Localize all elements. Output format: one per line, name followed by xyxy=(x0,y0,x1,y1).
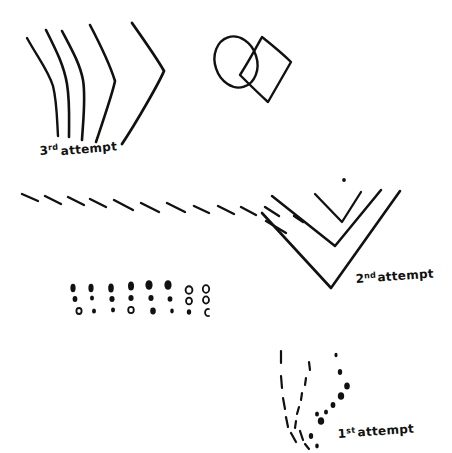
dashed-vee-segment xyxy=(305,378,306,385)
dashed-vee-segment xyxy=(305,444,309,449)
dash-segment xyxy=(265,207,279,216)
dashed-vee-segment xyxy=(309,362,310,370)
dot-mark xyxy=(92,308,96,313)
dashed-vee-dot xyxy=(315,444,319,449)
dashed-vee-dot xyxy=(324,409,328,414)
label-first-ordinal: st xyxy=(346,426,356,436)
dashed-vee-dot xyxy=(344,382,350,389)
vee-medium xyxy=(272,190,381,246)
dash-segment xyxy=(68,197,84,205)
loop-and-quadrilateral xyxy=(208,31,291,102)
quadrilateral-shape xyxy=(240,37,291,102)
label-third-attempt: 3rdattempt xyxy=(39,137,118,160)
dash-segment xyxy=(218,206,234,214)
dot-mark xyxy=(186,298,192,305)
dash-segment xyxy=(194,206,209,213)
dashed-vee-segment xyxy=(283,398,285,409)
dash-segment xyxy=(114,200,133,210)
dot-mark xyxy=(148,295,153,301)
dot-mark xyxy=(111,308,115,313)
dot-mark xyxy=(73,296,78,302)
dashed-vee-dot xyxy=(309,433,313,439)
dash-segment xyxy=(22,194,38,201)
dot-mark xyxy=(90,295,94,300)
dashed-vee-segment xyxy=(300,431,303,440)
dot-mark xyxy=(170,309,174,314)
third-attempt-chevron-fan xyxy=(27,23,164,144)
dot-mark xyxy=(128,295,133,301)
vee-small xyxy=(315,192,361,222)
fan-stroke-1 xyxy=(27,38,58,136)
dot-mark xyxy=(186,286,193,294)
dot-mark xyxy=(203,296,209,303)
dot-mark xyxy=(128,307,134,313)
vee-top-dot xyxy=(342,178,346,182)
label-first-attempt: 1stattempt xyxy=(337,422,414,441)
dashed-vee-dot xyxy=(334,353,337,357)
label-second-attempt-text: 2ndattempt xyxy=(355,267,434,286)
dashed-vee-segment xyxy=(291,433,296,442)
dashed-vee-segment xyxy=(297,407,299,414)
label-first-word: attempt xyxy=(357,422,414,440)
dashed-vee-segment xyxy=(295,421,296,428)
label-second-attempt: 2ndattempt xyxy=(355,267,434,286)
label-second-ordinal: nd xyxy=(364,271,377,281)
dash-segment xyxy=(90,199,106,207)
fan-stroke-3 xyxy=(62,31,84,140)
dot-mark xyxy=(203,285,209,293)
label-first-attempt-text: 1stattempt xyxy=(337,422,414,441)
dashed-vee-dot xyxy=(331,402,336,408)
dot-mark xyxy=(108,283,114,292)
dot-mark xyxy=(109,296,114,302)
dashed-vee-dot xyxy=(338,369,342,375)
dashed-vee-dot xyxy=(338,392,344,400)
dashed-vee-dot xyxy=(318,417,324,425)
dot-mark xyxy=(168,296,173,302)
dot-mark xyxy=(128,281,134,290)
loop-ellipse xyxy=(208,31,264,93)
label-third-word: attempt xyxy=(60,139,118,158)
dot-mark xyxy=(205,309,209,316)
label-second-word: attempt xyxy=(377,267,434,285)
dot-mark xyxy=(150,308,156,315)
dot-mark xyxy=(145,280,152,290)
sketch-drawing: 3rdattempt xyxy=(0,0,452,453)
sketch-canvas: 3rdattempt xyxy=(0,0,452,453)
dash-segment xyxy=(141,203,159,212)
dash-segment xyxy=(241,207,256,215)
dot-matrix-cluster xyxy=(70,280,209,316)
dash-segment xyxy=(167,203,185,212)
label-third-ordinal: rd xyxy=(48,142,59,152)
dashed-vee-segment xyxy=(301,393,302,400)
dot-mark xyxy=(164,280,171,290)
dot-mark xyxy=(70,284,75,292)
label-third-attempt-text: 3rdattempt xyxy=(39,137,118,160)
dashed-vee-segment xyxy=(281,376,282,388)
dot-mark xyxy=(88,284,93,292)
dashed-vee-dot xyxy=(315,411,319,416)
dot-mark xyxy=(187,309,191,315)
dot-mark xyxy=(76,308,81,314)
dash-segment xyxy=(45,196,61,204)
fan-stroke-5 xyxy=(122,23,164,144)
fan-stroke-4 xyxy=(90,25,115,142)
dashed-vee-segment xyxy=(286,417,288,427)
